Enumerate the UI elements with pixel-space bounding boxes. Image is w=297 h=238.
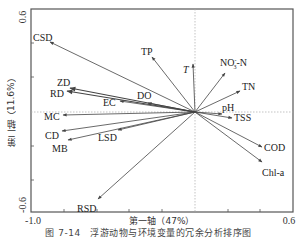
x-axis-title: 第一轴（47%） xyxy=(129,215,194,226)
label-CD: CD xyxy=(45,130,59,141)
y-min-label: -0.6 xyxy=(17,197,28,213)
label-ZD: ZD xyxy=(57,77,70,88)
plot-frame xyxy=(31,9,293,212)
label-MC: MC xyxy=(44,111,60,122)
x-min-label: -1.0 xyxy=(25,215,41,226)
label-NO3N: NO-3-N xyxy=(220,57,247,70)
label-COD: COD xyxy=(264,142,285,153)
label-TN: TN xyxy=(242,81,255,92)
vector-RSD xyxy=(98,112,195,199)
y-max-label: 0.6 xyxy=(17,11,28,24)
label-RD: RD xyxy=(50,88,64,99)
label-pH: pH xyxy=(222,102,234,113)
x-max-label: 0.6 xyxy=(283,215,296,226)
label-RSD: RSD xyxy=(77,203,96,214)
label-T: T xyxy=(183,64,190,75)
label-DO: DO xyxy=(137,90,151,101)
label-EC: EC xyxy=(103,97,116,108)
rda-biplot: 0.6 -0.6 -1.0 0.6 第一轴（47%） CSD TP T NO-3… xyxy=(0,0,297,238)
y-axis-title: 第二轴（11.6%） xyxy=(4,60,16,160)
label-MB: MB xyxy=(52,143,68,154)
label-LSD: LSD xyxy=(98,132,117,143)
label-CSD: CSD xyxy=(33,32,52,43)
vector-Chla xyxy=(195,112,262,162)
label-TSS: TSS xyxy=(234,112,251,123)
vector-NO3N xyxy=(195,73,225,112)
label-Chla: Chl-a xyxy=(262,167,285,178)
label-TP: TP xyxy=(141,46,153,57)
vector-MB xyxy=(68,112,195,140)
figure-caption: 图 7-14 浮游动物与环境变量的冗余分析排序图 xyxy=(0,226,297,238)
